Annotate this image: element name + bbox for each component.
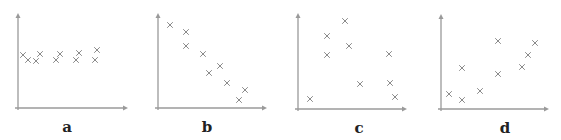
x-marker-icon — [346, 43, 352, 49]
x-marker-icon — [73, 57, 79, 63]
x-marker-icon — [92, 57, 98, 63]
x-axis-arrow-icon — [544, 107, 549, 112]
y-axis-arrow-icon — [296, 13, 301, 18]
x-marker-icon — [446, 91, 452, 97]
x-marker-icon — [307, 96, 313, 102]
x-axis-arrow-icon — [402, 107, 407, 112]
x-marker-icon — [183, 29, 189, 35]
y-axis-arrow-icon — [439, 14, 444, 19]
x-marker-icon — [200, 51, 206, 57]
x-marker-icon — [532, 40, 538, 46]
x-marker-icon — [76, 50, 82, 56]
y-axis-arrow-icon — [16, 13, 21, 18]
x-marker-icon — [236, 97, 242, 103]
x-marker-icon — [25, 57, 31, 63]
x-marker-icon — [525, 52, 531, 58]
x-marker-icon — [495, 71, 501, 77]
y-axis-arrow-icon — [156, 13, 161, 18]
x-marker-icon — [324, 33, 330, 39]
x-marker-icon — [57, 51, 63, 57]
x-marker-icon — [217, 63, 223, 69]
x-marker-icon — [477, 88, 483, 94]
x-marker-icon — [242, 87, 248, 93]
scatter-panel-c — [295, 13, 407, 112]
x-marker-icon — [167, 22, 173, 28]
scatter-panel-d — [438, 14, 549, 112]
x-marker-icon — [224, 80, 230, 86]
x-marker-icon — [37, 51, 43, 57]
x-marker-icon — [324, 52, 330, 58]
x-marker-icon — [206, 70, 212, 76]
x-marker-icon — [519, 64, 525, 70]
x-marker-icon — [357, 81, 363, 87]
panel-label-c: c — [354, 121, 363, 136]
panel-label-a: a — [62, 120, 72, 135]
x-marker-icon — [495, 38, 501, 44]
x-marker-icon — [342, 18, 348, 24]
scatter-panels-figure: a b c d — [0, 0, 561, 140]
x-marker-icon — [20, 52, 26, 58]
x-marker-icon — [392, 94, 398, 100]
x-marker-icon — [33, 58, 39, 64]
x-marker-icon — [183, 43, 189, 49]
scatter-plots-canvas — [0, 0, 561, 140]
x-marker-icon — [386, 51, 392, 57]
x-marker-icon — [459, 65, 465, 71]
x-marker-icon — [387, 80, 393, 86]
scatter-panel-a — [15, 13, 128, 111]
panel-label-b: b — [202, 120, 213, 135]
x-marker-icon — [53, 57, 59, 63]
x-axis-arrow-icon — [262, 106, 267, 111]
panel-label-d: d — [500, 121, 511, 136]
scatter-panel-b — [155, 13, 267, 111]
x-axis-arrow-icon — [123, 106, 128, 111]
x-marker-icon — [459, 97, 465, 103]
x-marker-icon — [94, 47, 100, 53]
